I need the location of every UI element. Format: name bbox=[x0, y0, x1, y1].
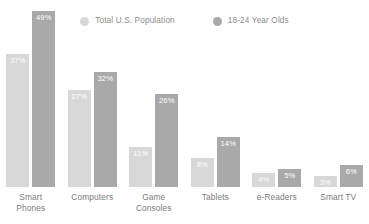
bar-group-game-consoles: 11%26% bbox=[129, 94, 178, 188]
bar-smart-tv-total-us-population[interactable]: 3% bbox=[314, 176, 337, 187]
x-axis-label-tablets: Tablets bbox=[185, 192, 247, 203]
bar-value-label: 3% bbox=[314, 179, 337, 187]
x-axis-label-smart-tv: Smart TV bbox=[308, 192, 369, 203]
bar-value-label: 26% bbox=[155, 97, 178, 105]
x-axis-label-e-readers: e-Readers bbox=[246, 192, 308, 203]
bar-value-label: 11% bbox=[129, 150, 152, 158]
bar-game-consoles-18-24-year-olds[interactable]: 26% bbox=[155, 94, 178, 188]
bar-tablets-18-24-year-olds[interactable]: 14% bbox=[217, 137, 240, 187]
bar-value-label: 32% bbox=[94, 75, 117, 83]
bar-value-label: 27% bbox=[68, 93, 91, 101]
bar-value-label: 49% bbox=[32, 14, 55, 22]
bar-value-label: 8% bbox=[191, 161, 214, 169]
bar-smart-phones-total-us-population[interactable]: 37% bbox=[6, 54, 29, 187]
bar-value-label: 37% bbox=[6, 57, 29, 65]
bar-group-smart-tv: 3%6% bbox=[314, 165, 363, 187]
bar-e-readers-total-us-population[interactable]: 4% bbox=[252, 173, 275, 187]
x-axis-label-game-consoles: Game Consoles bbox=[123, 192, 185, 214]
bar-value-label: 14% bbox=[217, 140, 240, 148]
bar-value-label: 6% bbox=[340, 168, 363, 176]
bar-e-readers-18-24-year-olds[interactable]: 5% bbox=[278, 169, 301, 187]
bar-value-label: 4% bbox=[252, 176, 275, 184]
bar-tablets-total-us-population[interactable]: 8% bbox=[191, 158, 214, 187]
plot-area: 37%49%27%32%11%26%8%14%4%5%3%6% bbox=[0, 0, 369, 187]
bar-smart-phones-18-24-year-olds[interactable]: 49% bbox=[32, 11, 55, 187]
bar-computers-total-us-population[interactable]: 27% bbox=[68, 90, 91, 187]
bar-group-tablets: 8%14% bbox=[191, 137, 240, 187]
x-axis-label-smart-phones: Smart Phones bbox=[0, 192, 62, 214]
x-axis: Smart PhonesComputersGame ConsolesTablet… bbox=[0, 192, 369, 224]
bar-computers-18-24-year-olds[interactable]: 32% bbox=[94, 72, 117, 187]
bar-group-e-readers: 4%5% bbox=[252, 169, 301, 187]
bar-chart: Total U.S. Population 18-24 Year Olds 37… bbox=[0, 0, 369, 224]
x-axis-label-computers: Computers bbox=[62, 192, 124, 203]
bar-group-smart-phones: 37%49% bbox=[6, 11, 55, 187]
bar-game-consoles-total-us-population[interactable]: 11% bbox=[129, 147, 152, 187]
bar-value-label: 5% bbox=[278, 172, 301, 180]
bar-group-computers: 27%32% bbox=[68, 72, 117, 187]
bar-smart-tv-18-24-year-olds[interactable]: 6% bbox=[340, 165, 363, 187]
